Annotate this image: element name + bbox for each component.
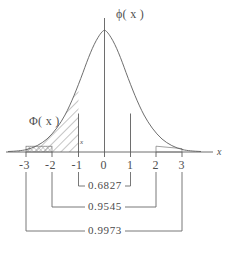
cumulative-function-label: Φ( x )	[29, 115, 60, 127]
tick-label-minus2: -2	[45, 159, 56, 171]
tick-label-plus3: 3	[179, 159, 185, 171]
right-tail-strip	[156, 146, 182, 152]
point-marker-label: x	[80, 139, 83, 146]
left-tail-strip	[26, 146, 52, 152]
bracket-label-1-sigma: 0.6827	[85, 180, 125, 191]
cumulative-area-shading	[6, 28, 79, 152]
tick-label-minus1: -1	[72, 159, 83, 171]
tick-label-zero: 0	[101, 159, 107, 171]
bracket-label-2-sigma: 0.9545	[85, 201, 125, 212]
tick-label-plus2: 2	[153, 159, 159, 171]
x-axis-ticks	[26, 152, 182, 157]
tick-label-minus3: -3	[19, 159, 30, 171]
x-axis-label: x	[217, 147, 221, 157]
bracket-label-3-sigma: 0.9973	[85, 225, 125, 236]
normal-distribution-figure: ϕ( x ) Φ( x ) x x -3 -2 -1 0 1 2 3 0.682…	[0, 0, 235, 254]
tick-label-plus1: 1	[127, 159, 133, 171]
density-function-label: ϕ( x )	[116, 8, 144, 20]
